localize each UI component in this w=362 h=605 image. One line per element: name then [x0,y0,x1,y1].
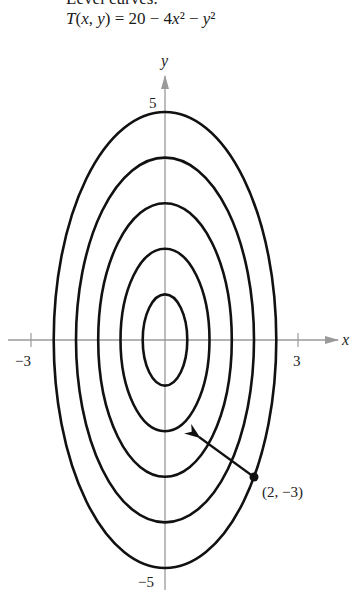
point-label: (2, −3) [262,484,303,501]
x-axis-label: x [341,331,349,348]
y-tick-label-neg5: −5 [138,574,154,590]
point-marker [250,473,259,482]
x-tick-label-neg3: −3 [15,353,31,369]
y-tick-label-5: 5 [149,95,157,111]
x-tick-label-3: 3 [293,353,301,369]
y-axis-label: y [159,52,169,70]
contour-plot: x y −3 3 5 −5 (2, −3) [0,0,362,605]
axes [8,76,338,590]
